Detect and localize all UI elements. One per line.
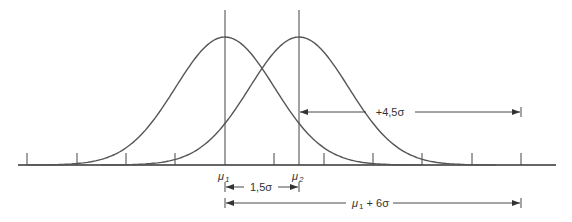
distribution-1-curve (27, 37, 421, 165)
spec-limit-dimension: μ1 + 6σ (225, 197, 521, 211)
spec-limit-label: μ1 + 6σ (351, 197, 389, 211)
mu1-label: μ1 (217, 170, 229, 184)
right-tail-dimension: +4,5σ (300, 106, 521, 118)
shift-label: 1,5σ (250, 181, 272, 193)
shift-dimension: 1,5σ (225, 181, 299, 193)
mu2-label: μ2 (291, 170, 304, 184)
normal-distribution-shift-diagram: +4,5σ μ1 μ2 1,5σ μ1 + 6σ (0, 0, 572, 222)
right-tail-label: +4,5σ (376, 106, 405, 118)
